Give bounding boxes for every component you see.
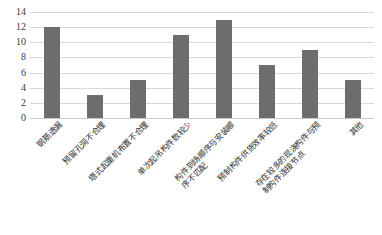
x-tick-label-line: 钢筋遗漏 (35, 120, 65, 150)
bar (302, 50, 318, 118)
bar (130, 80, 146, 118)
y-tick-label: 12 (0, 22, 26, 32)
bar (345, 80, 361, 118)
y-tick-label: 2 (0, 98, 26, 108)
x-tick-label: 钢筋遗漏 (35, 120, 65, 150)
bar (44, 27, 60, 118)
y-tick-label: 4 (0, 83, 26, 93)
bar (259, 65, 275, 118)
y-tick-label: 6 (0, 68, 26, 78)
x-tick-label-line: 其他 (347, 120, 365, 138)
bar (87, 95, 103, 118)
gridline (30, 118, 374, 119)
x-tick-label-line: 预留孔洞不合理 (61, 120, 108, 167)
x-axis-category-labels: 钢筋遗漏预留孔洞不合理塔式起重机布置不合理单次起吊构件数较少构件到场顺序与安装顺… (30, 120, 374, 232)
x-tick-label: 其他 (347, 120, 365, 138)
bar-chart: 02468101214 钢筋遗漏预留孔洞不合理塔式起重机布置不合理单次起吊构件数… (0, 0, 382, 235)
y-tick-label: 10 (0, 37, 26, 47)
x-tick-label-line: 制构件连接节点 (260, 127, 329, 196)
y-tick-label: 0 (0, 113, 26, 123)
bar (173, 35, 189, 118)
bar-series (30, 12, 374, 118)
plot-area (30, 12, 374, 118)
y-axis: 02468101214 (0, 12, 26, 118)
bar (216, 20, 232, 118)
y-tick-label: 8 (0, 52, 26, 62)
y-tick-label: 14 (0, 7, 26, 17)
x-tick-label: 预留孔洞不合理 (61, 120, 108, 167)
